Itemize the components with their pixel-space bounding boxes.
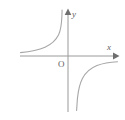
curve-branch-quadrant-4 xyxy=(77,62,118,111)
origin-label: O xyxy=(58,59,65,69)
curve-branch-quadrant-2 xyxy=(21,10,63,53)
y-axis-label: y xyxy=(71,9,76,19)
math-figure: y x O xyxy=(0,0,125,120)
y-axis-arrow-icon xyxy=(65,9,72,15)
hyperbola-graph: y x O xyxy=(0,0,125,120)
x-axis-label: x xyxy=(106,42,111,52)
x-axis-arrow-icon xyxy=(113,53,120,60)
